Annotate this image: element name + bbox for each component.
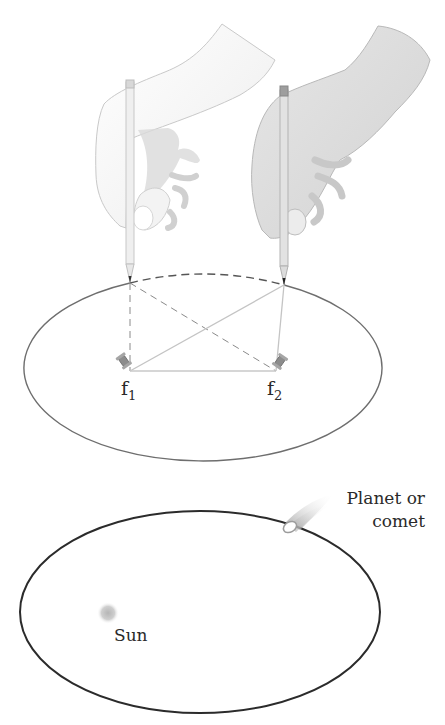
- orbit-ellipse: [20, 511, 380, 713]
- focus-label-f2: f2: [267, 377, 282, 403]
- string-left-diagonal: [130, 283, 276, 371]
- ellipse-diagram: f1 f2 Sun Planet or comet: [0, 0, 445, 725]
- right-hand-icon: [252, 26, 430, 238]
- focus-label-f1: f1: [121, 377, 136, 403]
- right-pencil-icon: [280, 86, 288, 286]
- bottom-panel: Sun Planet or comet: [20, 488, 426, 713]
- sun-label: Sun: [114, 625, 148, 645]
- comet-icon: [281, 494, 334, 535]
- left-hand-icon: [96, 24, 275, 230]
- string-right-diagonal: [130, 285, 284, 371]
- pin-f2-icon: [271, 353, 288, 371]
- top-ellipse-solid-arc: [24, 283, 382, 461]
- top-panel: f1 f2: [24, 24, 430, 461]
- sun-icon: [97, 602, 119, 624]
- top-ellipse-dashed-arc: [130, 274, 284, 285]
- comet-label-line1: Planet or: [346, 488, 425, 508]
- comet-label-line2: comet: [372, 511, 425, 531]
- left-pencil-icon: [126, 80, 134, 283]
